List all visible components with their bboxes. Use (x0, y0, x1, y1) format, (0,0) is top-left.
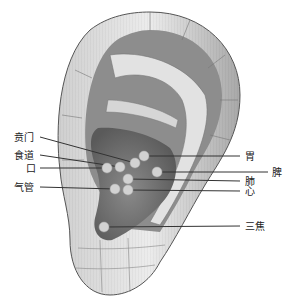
label-kou: 口 (26, 163, 36, 174)
label-benmen: 贲门 (14, 132, 34, 143)
label-qiguan: 气管 (14, 182, 34, 193)
label-sanjiao: 三焦 (245, 221, 265, 232)
label-wei: 胃 (245, 151, 255, 162)
label-shidao: 食道 (14, 150, 34, 161)
label-pi: 脾 (272, 167, 282, 178)
label-xin: 心 (245, 186, 255, 197)
